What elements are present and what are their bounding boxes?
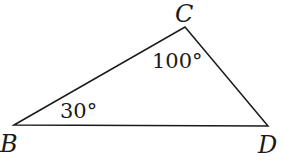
vertex-label-d: D [257,131,277,159]
vertex-label-c: C [175,0,193,28]
triangle-diagram: C B D 100° 30° [0,0,283,165]
triangle-bcd [14,27,268,126]
angle-label-b: 30° [60,99,97,123]
vertex-label-b: B [0,130,18,158]
angle-label-c: 100° [152,49,203,73]
